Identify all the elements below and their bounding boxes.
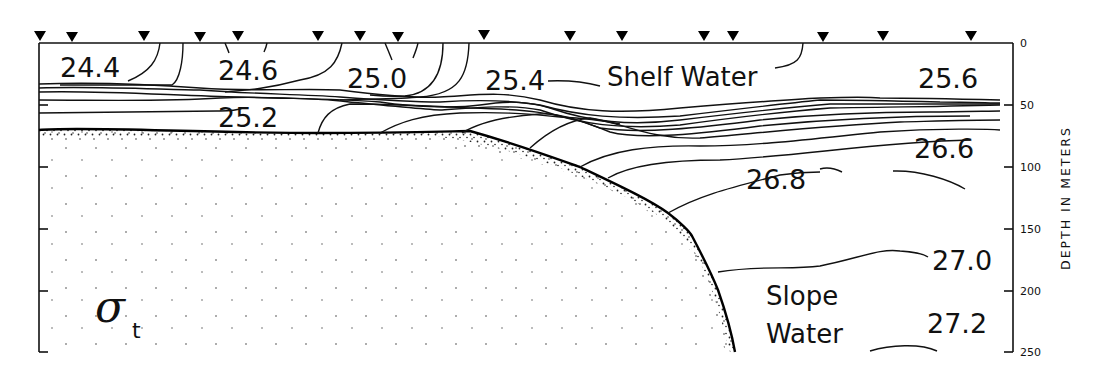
sigma-subscript: t [132,318,141,343]
station-marker-icon [354,31,366,41]
contour-label-27-2: 27.2 [927,308,987,339]
tick-250: 250 [1020,346,1041,359]
station-marker-icon [698,31,710,41]
station-marker-icon [965,31,977,41]
contour-label-25-6: 25.6 [918,63,978,94]
station-marker-icon [194,32,206,42]
slope-water-label-line1: Slope [766,281,838,311]
contour-label-24-4: 24.4 [60,52,120,83]
contour-label-25-2: 25.2 [218,102,278,133]
station-marker-icon [312,31,324,41]
contour-label-24-6: 24.6 [218,55,278,86]
station-marker-icon [877,31,889,41]
contour-label-26-8: 26.8 [746,164,806,195]
station-marker-icon [564,31,576,41]
station-marker-icon [66,32,78,42]
tick-150: 150 [1020,223,1041,236]
seafloor [39,129,735,352]
station-marker-icon [392,32,404,42]
depth-axis: 0 50 100 150 200 250 DEPTH IN METERS [1020,37,1073,359]
contour-label-25-0: 25.0 [347,63,407,94]
station-marker-icon [478,30,490,40]
contour-label-26-6: 26.6 [914,133,974,164]
contour-label-27-0: 27.0 [932,245,992,276]
station-marker-icon [727,31,739,41]
station-marker-icon [232,31,244,41]
axis-title: DEPTH IN METERS [1058,126,1073,270]
slope-water-label-line2: Water [766,319,843,349]
shelf-water-label: Shelf Water [607,62,758,92]
station-marker-icon [616,31,628,41]
sigma-symbol: σ [95,281,127,332]
station-marker-icon [817,32,829,42]
tick-0: 0 [1020,37,1027,50]
sigma-t-section-diagram: 0 50 100 150 200 250 DEPTH IN METERS [0,0,1097,376]
tick-200: 200 [1020,285,1041,298]
station-markers [34,30,977,42]
station-marker-icon [138,31,150,41]
tick-50: 50 [1020,99,1034,112]
tick-100: 100 [1020,161,1041,174]
station-marker-icon [34,31,46,41]
contour-label-25-4: 25.4 [485,65,545,96]
